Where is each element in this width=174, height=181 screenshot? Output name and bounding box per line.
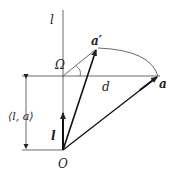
vector-a-prime [63,50,96,150]
rotation-arc [98,48,158,76]
radius-line [63,50,95,76]
angle-arc [76,66,81,76]
label-axis-l: l [50,13,54,27]
label-a-prime: a′ [91,34,103,48]
label-l-vector: l [51,129,56,143]
label-origin: O [58,157,68,171]
label-inner-product: ⟨l, a⟩ [8,110,34,123]
label-omega: Ω [54,58,65,72]
rotation-diagram: l Ω a′ d a ⟨l, a⟩ l O [0,0,174,181]
label-d: d [102,80,110,94]
vector-a-head [140,77,157,90]
label-a: a [159,77,167,91]
